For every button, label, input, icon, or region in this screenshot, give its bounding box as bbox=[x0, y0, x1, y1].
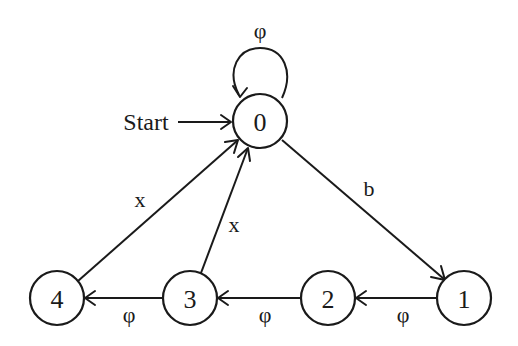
edge-1-to-2: φ bbox=[356, 291, 437, 327]
arrowhead-icon bbox=[233, 86, 247, 97]
state-4: 4 bbox=[30, 271, 84, 325]
edge-0-to-0: φ bbox=[233, 18, 287, 99]
edge-2-to-3: φ bbox=[218, 291, 301, 327]
state-2: 2 bbox=[301, 271, 355, 325]
state-label: 0 bbox=[254, 108, 267, 137]
edge-label-3-4: φ bbox=[123, 302, 136, 327]
state-label: 3 bbox=[184, 285, 197, 314]
state-label: 2 bbox=[322, 285, 335, 314]
start-label: Start bbox=[123, 109, 169, 135]
edge-label-2-3: φ bbox=[259, 302, 272, 327]
edge-label-0-0: φ bbox=[254, 18, 267, 43]
edge-label-0-1: b bbox=[364, 176, 375, 201]
state-3: 3 bbox=[163, 271, 217, 325]
edge-label-3-0: x bbox=[229, 212, 240, 237]
edge-3-to-4: φ bbox=[85, 291, 163, 327]
edge-label-1-2: φ bbox=[397, 302, 410, 327]
edge-4-to-0: x bbox=[78, 140, 238, 281]
state-diagram: φ Start b φ φ φ x x bbox=[0, 0, 518, 346]
edge-0-to-1: b bbox=[282, 140, 445, 280]
state-0: 0 bbox=[233, 94, 287, 148]
start-arrow: Start bbox=[123, 109, 231, 135]
state-label: 1 bbox=[458, 285, 471, 314]
edge-label-4-0: x bbox=[135, 187, 146, 212]
state-1: 1 bbox=[437, 271, 491, 325]
state-label: 4 bbox=[51, 285, 64, 314]
